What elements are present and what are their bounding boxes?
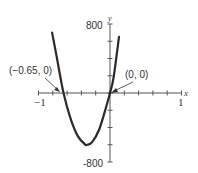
- y-min-label: -800: [83, 158, 103, 169]
- left-root-label: (−0.65, 0): [9, 65, 52, 76]
- x-min-label: −1: [34, 96, 46, 108]
- annotation-origin: (0, 0): [111, 69, 148, 93]
- annotation-left-root: (−0.65, 0): [9, 65, 60, 92]
- function-curve: [52, 33, 119, 146]
- arrow-icon: [54, 87, 60, 92]
- function-plot: x −1 1 y 800 -800 (−0.65, 0) (0, 0): [0, 0, 198, 173]
- x-axis-label: x: [183, 88, 188, 98]
- y-max-label: 800: [86, 20, 103, 31]
- y-axis-label: y: [107, 14, 112, 23]
- x-max-label: 1: [178, 96, 184, 108]
- origin-label: (0, 0): [125, 69, 148, 80]
